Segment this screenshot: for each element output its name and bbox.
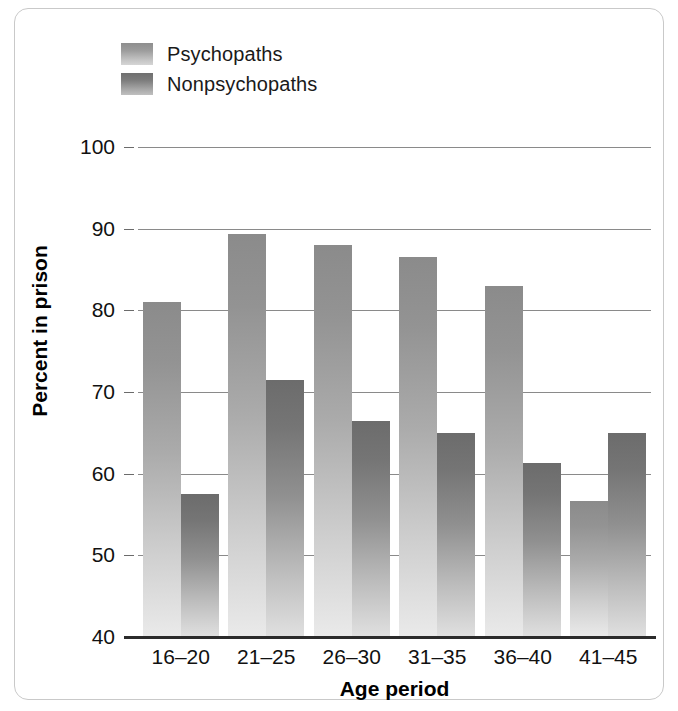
legend-label-nonpsychopaths: Nonpsychopaths [167, 73, 317, 96]
bar-psychopaths-26–30 [314, 245, 352, 637]
chart-figure: Psychopaths Nonpsychopaths 4050607080901… [14, 8, 664, 700]
y-tick-90 [124, 229, 134, 230]
bar-group-41–45 [570, 147, 646, 637]
x-tick-label-26–30: 26–30 [323, 645, 381, 669]
x-tick-label-36–40: 36–40 [494, 645, 552, 669]
bar-nonpsychopaths-26–30 [352, 421, 390, 637]
y-tick-label-100: 100 [55, 135, 115, 159]
y-tick-60 [124, 474, 134, 475]
x-tick-label-16–20: 16–20 [152, 645, 210, 669]
bar-psychopaths-16–20 [143, 302, 181, 637]
legend-label-psychopaths: Psychopaths [167, 43, 283, 66]
plot-area [138, 147, 651, 637]
bar-nonpsychopaths-21–25 [266, 380, 304, 637]
y-tick-label-60: 60 [55, 462, 115, 486]
bar-group-31–35 [399, 147, 475, 637]
y-axis-title: Percent in prison [28, 201, 52, 461]
nonpsychopaths-swatch-icon [121, 73, 153, 95]
y-tick-label-40: 40 [55, 625, 115, 649]
bar-psychopaths-21–25 [228, 234, 266, 637]
y-tick-label-80: 80 [55, 298, 115, 322]
y-tick-label-50: 50 [55, 543, 115, 567]
x-axis-line [124, 636, 656, 639]
y-tick-label-90: 90 [55, 217, 115, 241]
bar-nonpsychopaths-31–35 [437, 433, 475, 637]
x-tick-label-41–45: 41–45 [579, 645, 637, 669]
bar-group-26–30 [314, 147, 390, 637]
legend-item-psychopaths: Psychopaths [121, 39, 317, 69]
bar-nonpsychopaths-16–20 [181, 494, 219, 637]
bar-group-16–20 [143, 147, 219, 637]
legend-item-nonpsychopaths: Nonpsychopaths [121, 69, 317, 99]
x-tick-label-21–25: 21–25 [237, 645, 295, 669]
y-tick-100 [124, 147, 134, 148]
y-tick-70 [124, 392, 134, 393]
bar-group-36–40 [485, 147, 561, 637]
bar-group-21–25 [228, 147, 304, 637]
chart-legend: Psychopaths Nonpsychopaths [121, 39, 317, 99]
bar-psychopaths-31–35 [399, 257, 437, 637]
bar-psychopaths-36–40 [485, 286, 523, 637]
bar-psychopaths-41–45 [570, 501, 608, 637]
x-axis-title: Age period [138, 677, 651, 701]
x-axis-tick-labels: 16–2021–2526–3031–3536–4041–45 [138, 645, 651, 675]
bar-nonpsychopaths-36–40 [523, 463, 561, 637]
y-axis-tick-labels: 405060708090100 [55, 147, 115, 637]
x-tick-label-31–35: 31–35 [408, 645, 466, 669]
bar-nonpsychopaths-41–45 [608, 433, 646, 637]
psychopaths-swatch-icon [121, 43, 153, 65]
y-tick-label-70: 70 [55, 380, 115, 404]
y-tick-80 [124, 310, 134, 311]
y-tick-50 [124, 555, 134, 556]
